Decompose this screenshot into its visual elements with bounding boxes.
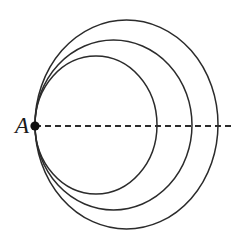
middle-circle: [35, 40, 192, 210]
outer-circle: [35, 20, 218, 229]
geometry-figure: A: [0, 0, 243, 243]
tangent-point-label: A: [13, 113, 30, 138]
inner-circle: [35, 56, 157, 194]
tangent-point-dot: [30, 121, 39, 130]
figure-canvas: A: [0, 0, 243, 243]
